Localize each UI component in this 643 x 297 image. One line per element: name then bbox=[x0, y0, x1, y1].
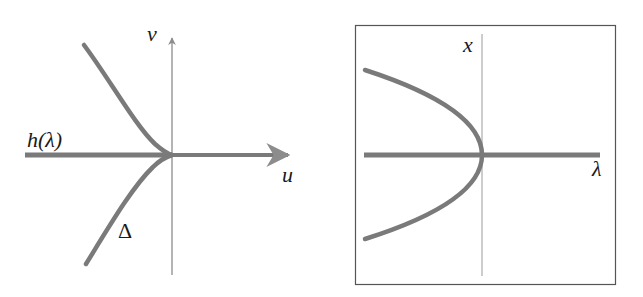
left-panel: v h(λ) u Δ bbox=[25, 21, 293, 275]
v-label: v bbox=[147, 21, 157, 46]
right-panel: x λ bbox=[356, 26, 616, 285]
cusp-lower-branch bbox=[86, 155, 172, 264]
x-label: x bbox=[462, 32, 473, 57]
h-lambda-label: h(λ) bbox=[27, 127, 62, 152]
lambda-label: λ bbox=[591, 156, 602, 181]
delta-label: Δ bbox=[118, 218, 132, 243]
figure: v h(λ) u Δ x λ bbox=[0, 0, 643, 297]
u-label: u bbox=[282, 162, 293, 187]
cusp-upper-branch bbox=[84, 45, 172, 155]
